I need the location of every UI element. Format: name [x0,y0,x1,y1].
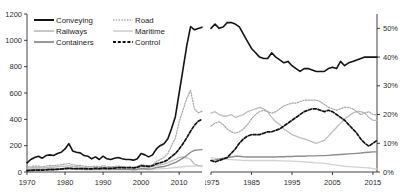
legend-item-railways: Railways [34,27,87,36]
y-tick-label: 400 [9,115,22,124]
y-tick-label: 0% [383,168,394,177]
legend-item-containers: Containers [34,38,94,47]
legend-item-maritime: Maritime [113,27,165,36]
series-line-maritime [211,158,377,169]
legend-item-control: Control [113,38,160,47]
y-tick-label: 1000 [5,36,22,45]
legend-label-maritime: Maritime [135,27,165,36]
legend-item-conveying: Conveying [34,16,93,25]
legend-label-control: Control [135,38,160,47]
x-tick-label: 1970 [19,178,36,187]
figure-root: 0200400600800100012001970198019902000201… [0,0,411,196]
y-tick-label: 40% [383,53,398,62]
y-tick-label: 800 [9,62,22,71]
y-tick-label: 20% [383,110,398,119]
x-tick-label: 1980 [57,178,74,187]
x-tick-label: 2015 [365,178,382,187]
series-line-railways [211,107,377,143]
left-chart-panel: 0200400600800100012001970198019902000201… [0,0,205,196]
legend-label-conveying: Conveying [56,16,93,25]
legend-item-road: Road [113,16,154,25]
y-tick-label: 200 [9,141,22,150]
y-tick-label: 600 [9,89,22,98]
y-tick-label: 30% [383,81,398,90]
left-chart-svg: 0200400600800100012001970198019902000201… [0,0,205,196]
y-tick-label: 0 [18,168,22,177]
x-tick-label: 1975 [205,178,219,187]
right-chart-panel: 0%10%20%30%40%50%19751985199520052015 [205,0,411,196]
x-tick-label: 1985 [243,178,260,187]
series-line-conveying [211,23,377,72]
x-tick-label: 2005 [324,178,341,187]
y-tick-label: 1200 [5,10,22,19]
legend-label-railways: Railways [56,27,87,36]
y-tick-label: 50% [383,24,398,33]
x-tick-label: 2000 [133,178,150,187]
legend-label-containers: Containers [56,38,94,47]
series-line-containers [211,152,377,161]
right-chart-svg: 0%10%20%30%40%50%19751985199520052015 [205,0,411,196]
y-tick-label: 10% [383,139,398,148]
x-tick-label: 1995 [284,178,301,187]
series-line-conveying [27,27,202,163]
legend-label-road: Road [135,16,154,25]
x-tick-label: 1990 [95,178,112,187]
x-tick-label: 2010 [171,178,188,187]
